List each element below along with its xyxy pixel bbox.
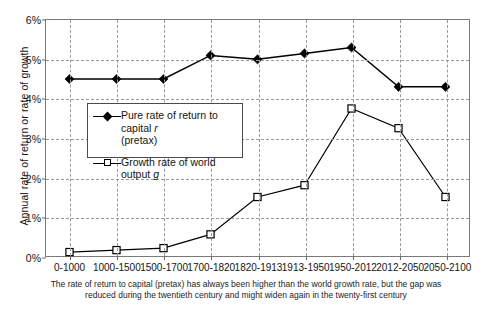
y-tick-mark <box>42 20 46 21</box>
legend-entry-r: Pure rate of return to capital r(pretax) <box>88 109 242 147</box>
x-tick-label: 2012-2050 <box>376 262 424 273</box>
y-tick-label: 3% <box>26 133 41 145</box>
legend-label-g-text: Growth rate of world output <box>121 156 216 181</box>
gridline-horizontal <box>46 99 469 100</box>
legend-label-g: Growth rate of world output g <box>121 156 238 181</box>
legend-entry-g: Growth rate of world output g <box>88 156 242 181</box>
chart-legend: Pure rate of return to capital r(pretax)… <box>87 103 243 158</box>
y-tick-label: 0% <box>26 252 41 264</box>
x-tick-mark <box>70 256 71 260</box>
gridline-horizontal <box>46 60 469 61</box>
caption-line-2: reduced during the twentieth century and… <box>85 290 407 300</box>
y-tick-label: 5% <box>26 54 41 66</box>
gridline-horizontal <box>46 218 469 219</box>
gridline-vertical <box>400 20 401 256</box>
y-tick-mark <box>42 59 46 60</box>
x-tick-mark <box>259 256 260 260</box>
x-tick-label: 1820-1913 <box>235 262 283 273</box>
legend-label-r-sub: (pretax) <box>121 134 157 146</box>
gridline-vertical <box>70 20 71 256</box>
y-tick-mark <box>42 178 46 179</box>
x-tick-mark <box>353 256 354 260</box>
x-tick-label: 0-1000 <box>54 262 85 273</box>
data-point-marker-r <box>394 82 403 91</box>
caption-line-1: The rate of return to capital (pretax) h… <box>51 279 442 289</box>
legend-key-filled-diamond-icon <box>93 110 121 123</box>
data-point-marker-r <box>300 49 309 58</box>
data-point-marker-r <box>441 82 450 91</box>
legend-key-open-square-icon <box>93 157 121 170</box>
y-tick-label: 2% <box>26 173 41 185</box>
x-tick-label: 1700-1820 <box>187 262 235 273</box>
figure-caption: The rate of return to capital (pretax) h… <box>46 279 446 301</box>
x-tick-mark <box>117 256 118 260</box>
y-tick-mark <box>42 258 46 259</box>
x-tick-mark <box>400 256 401 260</box>
legend-variable-g: g <box>153 168 159 180</box>
data-point-marker-g <box>301 182 308 189</box>
legend-variable-r: r <box>154 122 158 134</box>
x-tick-mark <box>164 256 165 260</box>
x-tick-label: 1950-2012 <box>329 262 377 273</box>
gridline-vertical <box>259 20 260 256</box>
x-tick-label: 2050-2100 <box>423 262 471 273</box>
y-tick-label: 1% <box>26 212 41 224</box>
x-tick-mark <box>447 256 448 260</box>
series-line-r <box>69 48 445 87</box>
y-tick-label: 4% <box>26 93 41 105</box>
data-point-marker-g <box>254 193 261 200</box>
gridline-vertical <box>447 20 448 256</box>
gridline-vertical <box>353 20 354 256</box>
y-tick-label: 6% <box>26 14 41 26</box>
legend-label-r: Pure rate of return to capital r(pretax) <box>121 109 238 147</box>
x-tick-label: 1913-1950 <box>282 262 330 273</box>
x-tick-mark <box>306 256 307 260</box>
legend-label-r-text: Pure rate of return to capital <box>121 109 218 134</box>
y-tick-mark <box>42 218 46 219</box>
x-tick-label: 1000-1500 <box>93 262 141 273</box>
y-tick-mark <box>42 139 46 140</box>
y-tick-mark <box>42 99 46 100</box>
data-point-marker-g <box>348 105 355 112</box>
data-point-marker-r <box>347 43 356 52</box>
x-tick-label: 1500-1700 <box>140 262 188 273</box>
x-tick-mark <box>211 256 212 260</box>
chart-figure: Annual rate of return or rate of growth … <box>0 0 493 310</box>
gridline-vertical <box>306 20 307 256</box>
